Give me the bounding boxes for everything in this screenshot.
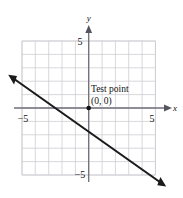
graph-figure: x y −5 5 5 −5 Test point (0, 0) [0, 0, 183, 198]
x-tick-label-negative-5: −5 [18, 113, 29, 124]
line-arrowhead-lower-right [157, 177, 166, 187]
y-axis-label: y [86, 13, 91, 23]
test-point-dot [86, 106, 91, 111]
x-axis-arrowhead [164, 105, 172, 112]
boundary-line [8, 75, 166, 187]
test-point-coordinates: (0, 0) [91, 96, 112, 107]
line-arrowhead-upper-left [8, 75, 17, 85]
test-point-label: Test point [91, 84, 129, 94]
y-tick-label-negative-5: −5 [75, 169, 86, 180]
x-tick-label-positive-5: 5 [150, 113, 155, 124]
coordinate-plane-svg: x y −5 5 5 −5 Test point (0, 0) [0, 0, 183, 198]
x-axis-label: x [172, 103, 177, 113]
y-tick-label-positive-5: 5 [78, 36, 83, 47]
y-axis-arrowhead [85, 25, 92, 33]
